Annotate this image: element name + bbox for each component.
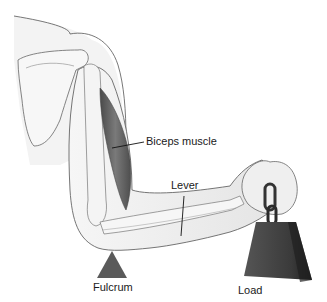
- fulcrum-triangle: [97, 251, 127, 278]
- load-label: Load: [238, 284, 262, 296]
- arm-illustration: [0, 0, 327, 302]
- lever-label: Lever: [171, 179, 199, 191]
- lever-diagram: Biceps muscle Lever Fulcrum Load: [0, 0, 327, 302]
- biceps-label: Biceps muscle: [146, 135, 217, 147]
- fulcrum-label: Fulcrum: [93, 281, 133, 293]
- weight: [244, 222, 312, 282]
